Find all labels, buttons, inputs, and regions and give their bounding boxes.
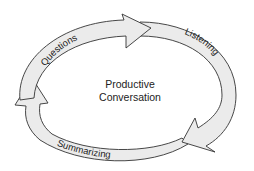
- cycle-diagram: Questions Listening Summarizing Producti…: [0, 0, 254, 171]
- center-title-line2: Conversation: [99, 91, 161, 103]
- center-title-line1: Productive: [105, 78, 155, 90]
